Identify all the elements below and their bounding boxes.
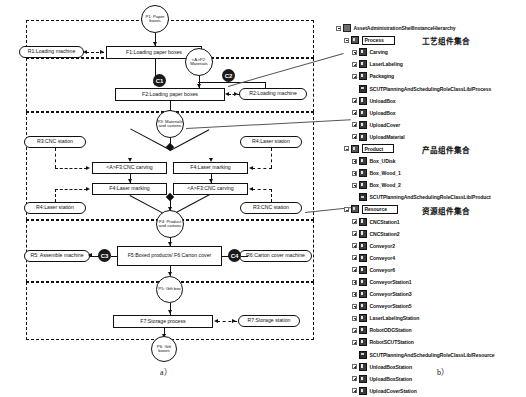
tree-node[interactable]: SCUTPlanningAndSchedulingRoleClassLib/Re…: [336, 349, 526, 361]
tree-node-label: RobotODGStation: [370, 327, 412, 333]
collapse-icon[interactable]: [336, 26, 341, 31]
tree-node-label: CNCStation1: [370, 219, 400, 225]
leaf-icon: [359, 363, 367, 371]
tree-node[interactable]: UnloadBox: [336, 95, 526, 107]
tree-node[interactable]: UploadMaterial: [336, 131, 526, 143]
tree-node-label: UnloadBoxStation: [370, 364, 413, 370]
tree-node[interactable]: CNCStation2: [336, 228, 526, 240]
leaf-icon: [359, 230, 367, 238]
leaf-icon: [359, 314, 367, 322]
collapse-icon[interactable]: [344, 38, 349, 43]
tree-node[interactable]: Box_Wood_2: [336, 179, 526, 191]
expand-icon[interactable]: [352, 171, 357, 176]
tree-node[interactable]: Conveyor2: [336, 240, 526, 252]
tree-node[interactable]: AssetAdministrationShellInstanceHierarch…: [336, 22, 526, 34]
resource-r3-b: R3:CNC station: [240, 202, 302, 214]
tree-node[interactable]: CNCStation1: [336, 216, 526, 228]
tree-node[interactable]: Box_Wood_1: [336, 167, 526, 179]
tree-node-label: UploadMaterial: [370, 134, 405, 140]
resource-r3-b-label: R3:CNC station: [253, 205, 289, 211]
collapse-icon[interactable]: [344, 146, 349, 151]
tree-node[interactable]: Conveyor4: [336, 252, 526, 264]
function-f3-b-label: <A>F3:CNC carving: [187, 186, 233, 192]
resource-r6: R6:Carton cover machine: [239, 250, 312, 262]
expand-icon[interactable]: [352, 74, 357, 79]
leaf-icon: [359, 157, 367, 165]
constraint-c1-label: C1: [156, 78, 164, 84]
tree-node[interactable]: Carving: [336, 46, 526, 58]
tree-node-label: UploadBoxStation: [370, 376, 413, 382]
tree-node[interactable]: UploadBoxStation: [336, 373, 526, 385]
tree-node[interactable]: RobotODGStation: [336, 324, 526, 336]
expand-icon[interactable]: [352, 183, 357, 188]
expand-icon[interactable]: [352, 304, 357, 309]
expand-icon[interactable]: [352, 122, 357, 127]
expand-icon[interactable]: [352, 243, 357, 248]
expand-icon[interactable]: [352, 364, 357, 369]
leaf-icon: [359, 48, 367, 56]
product-p2-label: <A>P2: Materials: [186, 58, 212, 67]
aas-instance-hierarchy-tree[interactable]: AssetAdministrationShellInstanceHierarch…: [336, 22, 526, 352]
resource-r1-label: R1:Loading machine: [28, 49, 76, 55]
expand-icon[interactable]: [352, 328, 357, 333]
tree-node[interactable]: UploadBox: [336, 107, 526, 119]
tree-node[interactable]: Packaging: [336, 70, 526, 82]
tree-node[interactable]: UnloadBoxStation: [336, 361, 526, 373]
expand-icon[interactable]: [352, 62, 357, 67]
product-p3-label: P3: Materials and cartons: [157, 120, 183, 129]
leaf-icon: [359, 254, 367, 262]
leaf-icon: [359, 326, 367, 334]
expand-icon[interactable]: [352, 340, 357, 345]
expand-icon[interactable]: [352, 388, 357, 393]
tree-node[interactable]: UploadCover: [336, 119, 526, 131]
tree-node[interactable]: Box_UDisk: [336, 155, 526, 167]
tree-node[interactable]: LaserLabelingStation: [336, 312, 526, 324]
expand-icon[interactable]: [352, 316, 357, 321]
tree-node-label: LaserLabelingStation: [370, 315, 420, 321]
tree-node[interactable]: SCUTPlanningAndSchedulingRoleClassLib/Pr…: [336, 191, 526, 203]
tree-node[interactable]: ConveyorStation5: [336, 300, 526, 312]
tree-node[interactable]: RobotSCUTStation: [336, 336, 526, 348]
expand-icon[interactable]: [352, 219, 357, 224]
expand-icon[interactable]: [352, 159, 357, 164]
expand-icon[interactable]: [352, 50, 357, 55]
expand-icon[interactable]: [352, 267, 357, 272]
tree-node-label: Conveyor4: [370, 255, 395, 261]
product-p1: P1: Paper boxes: [141, 5, 169, 33]
tree-node[interactable]: Conveyor6: [336, 264, 526, 276]
resource-r3-a: R3:CNC station: [24, 136, 86, 148]
constraint-c1: C1: [153, 74, 166, 87]
tree-node[interactable]: LaserLabeling: [336, 58, 526, 70]
expand-icon[interactable]: [352, 280, 357, 285]
tree-group-annotation-resource: 资源组件集合: [422, 205, 470, 216]
collapse-icon[interactable]: [344, 207, 349, 212]
tree-node[interactable]: ConveyorStation3: [336, 288, 526, 300]
expand-icon[interactable]: [352, 292, 357, 297]
leaf-icon: [359, 72, 367, 80]
resource-r1: R1:Loading machine: [19, 46, 84, 58]
function-f2: F2:Loading paper boxes: [115, 88, 225, 101]
expand-icon[interactable]: [352, 110, 357, 115]
expand-icon[interactable]: [352, 134, 357, 139]
expand-icon[interactable]: [352, 376, 357, 381]
expand-icon[interactable]: [352, 98, 357, 103]
process-diagram-panel: P1: Paper boxes F1:Loading paper boxes R…: [0, 0, 336, 360]
tree-node-label: Carving: [370, 49, 388, 55]
no-expander-icon: [352, 86, 357, 91]
resource-r4-b-label: R4:Laser station: [36, 205, 74, 211]
tree-group-annotation-product: 产品组件集合: [422, 144, 470, 155]
tree-node-label: ConveyorStation5: [370, 303, 412, 309]
function-f4-b-label: F4:Laser marking: [109, 186, 149, 192]
constraint-c4: C4: [228, 249, 241, 262]
tree-node-label: Box_UDisk: [370, 158, 396, 164]
leaf-icon: [359, 109, 367, 117]
expand-icon[interactable]: [352, 255, 357, 260]
tree-node[interactable]: SCUTPlanningAndSchedulingRoleClassLib/Pr…: [336, 82, 526, 94]
tree-node[interactable]: ConveyorStation1: [336, 276, 526, 288]
expand-icon[interactable]: [352, 231, 357, 236]
tree-node[interactable]: UploadCoverStation: [336, 385, 526, 397]
resource-r4-a-label: R4:Laser station: [252, 139, 290, 145]
function-f1-label: F1:Loading paper boxes: [126, 50, 182, 56]
function-f3-a-label: <A>F3:CNC carving: [106, 165, 152, 171]
leaf-icon: [359, 375, 367, 383]
